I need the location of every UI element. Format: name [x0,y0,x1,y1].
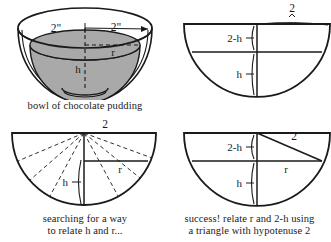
caption-searching: searching for a way to relate h and r... [0,213,170,237]
label-top-two: 2 [102,118,108,130]
label-radius-right: 2" [111,21,121,33]
caption-success: success! relate r and 2-h using a triang… [168,213,331,237]
label-pudding-radius: r [118,163,122,175]
label-upper-segment: 2-h [227,32,242,44]
label-pudding-height: h [237,177,243,189]
searching-diagram: 2 r h [0,118,170,213]
label-lower-segment: h [237,68,243,80]
caption-bowl-line: bowl of chocolate pudding [0,100,170,112]
label-pudding-height: h [75,63,81,75]
label-pudding-height: h [63,176,69,188]
label-radius-left: 2" [51,22,61,34]
bowl-diagram: 2" 2" r h [0,0,170,100]
label-pudding-radius: r [284,163,288,175]
caption-success-line-1: success! relate r and 2-h using [168,213,331,225]
caption-searching-line-1: searching for a way [0,213,170,225]
caption-searching-line-2: to relate h and r... [0,225,170,237]
panel-success: 2 2-h r h success! relate r and 2-h usin… [168,118,331,242]
panel-bowl-of-pudding: 2" 2" r h bowl of chocolate pudding [0,0,170,120]
radius-arrowhead [141,26,148,32]
caption-success-line-2: a triangle with hypotenuse 2 [168,225,331,237]
label-top-arc-two: 2 [289,2,295,14]
cross-section-diagram: 2 2-h h [168,0,331,120]
label-pudding-radius: r [111,46,115,58]
label-upper-segment: 2-h [227,141,242,153]
success-diagram: 2 2-h r h [168,118,331,213]
label-hypotenuse-two: 2 [291,130,297,142]
caret-two [289,14,295,17]
panel-searching: 2 r h searching for a way to relate h an… [0,118,170,242]
panel-cross-section: 2 2-h h [168,0,331,120]
caption-bowl: bowl of chocolate pudding [0,100,170,112]
